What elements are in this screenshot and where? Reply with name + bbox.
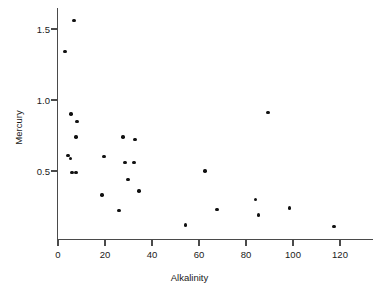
data-point bbox=[100, 193, 103, 196]
scatter-plot: 0.51.01.5020406080100120 Alkalinity Merc… bbox=[0, 0, 379, 298]
data-point bbox=[74, 171, 77, 174]
data-point bbox=[254, 198, 257, 201]
data-point bbox=[126, 178, 129, 181]
data-point bbox=[123, 161, 126, 164]
data-points-layer bbox=[0, 0, 379, 298]
data-point bbox=[132, 161, 135, 164]
data-point bbox=[69, 157, 72, 160]
data-point bbox=[72, 19, 75, 22]
data-point bbox=[69, 112, 72, 115]
data-point bbox=[102, 155, 105, 158]
data-point bbox=[121, 135, 124, 138]
data-point bbox=[137, 189, 140, 192]
y-axis-title: Mercury bbox=[13, 98, 24, 158]
data-point bbox=[74, 135, 77, 138]
data-point bbox=[70, 171, 73, 174]
data-point bbox=[215, 208, 218, 211]
data-point bbox=[117, 209, 120, 212]
x-axis-title: Alkalinity bbox=[0, 272, 379, 283]
data-point bbox=[266, 111, 269, 114]
data-point bbox=[184, 223, 187, 226]
data-point bbox=[133, 138, 136, 141]
data-point bbox=[203, 169, 206, 172]
data-point bbox=[63, 50, 66, 53]
data-point bbox=[257, 213, 260, 216]
data-point bbox=[332, 225, 335, 228]
data-point bbox=[75, 120, 78, 123]
data-point bbox=[288, 206, 291, 209]
